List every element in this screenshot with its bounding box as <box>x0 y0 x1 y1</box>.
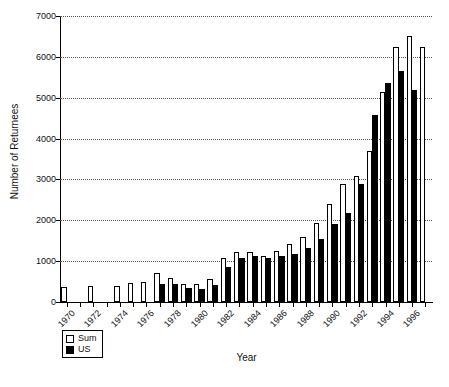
x-tick-mark <box>80 302 81 307</box>
bar-us <box>332 224 337 302</box>
x-tick-label: 1990 <box>321 308 342 329</box>
bar-group <box>234 16 245 302</box>
bar-group <box>221 16 232 302</box>
y-axis-title: Number of Returnees <box>10 103 21 199</box>
bar-group <box>300 16 311 302</box>
bar-group <box>380 16 391 302</box>
x-tick-label: 1992 <box>348 308 369 329</box>
chart-legend: Sum US <box>62 330 103 358</box>
bar-group <box>314 16 325 302</box>
x-tick-label: 1988 <box>295 308 316 329</box>
y-axis-title-wrap: Number of Returnees <box>6 0 24 302</box>
x-tick-mark <box>107 302 108 307</box>
x-tick-mark <box>279 302 280 307</box>
bar-group <box>420 16 431 302</box>
x-tick-label: 1986 <box>268 308 289 329</box>
bar-group <box>75 16 86 302</box>
bar-series-container <box>60 16 432 302</box>
bar-group <box>247 16 258 302</box>
x-tick-mark <box>293 302 294 307</box>
x-tick-label: 1996 <box>401 308 422 329</box>
x-axis-title: Year <box>60 352 433 363</box>
x-tick-mark <box>266 302 267 307</box>
y-tick-label: 5000 <box>36 93 56 103</box>
bar-group <box>207 16 218 302</box>
bar-us <box>319 239 324 302</box>
y-tick-label: 6000 <box>36 52 56 62</box>
y-tick-label: 3000 <box>36 174 56 184</box>
x-tick-mark <box>173 302 174 307</box>
bar-group <box>88 16 99 302</box>
legend-label-us: US <box>78 344 91 355</box>
bar-us <box>160 284 165 302</box>
bar-group <box>354 16 365 302</box>
bar-us <box>292 254 297 302</box>
bar-group <box>168 16 179 302</box>
bar-us <box>213 285 218 302</box>
x-tick-label: 1976 <box>135 308 156 329</box>
x-tick-mark <box>239 302 240 307</box>
x-tick-mark <box>346 302 347 307</box>
filled-square-swatch-icon <box>66 346 74 354</box>
bar-group <box>274 16 285 302</box>
bar-group <box>61 16 72 302</box>
bar-group <box>407 16 418 302</box>
legend-label-sum: Sum <box>78 333 97 344</box>
x-tick-label: 1980 <box>188 308 209 329</box>
bar-sum <box>128 283 133 302</box>
y-tick-label: 4000 <box>36 134 56 144</box>
x-tick-mark <box>412 302 413 307</box>
x-tick-mark <box>359 302 360 307</box>
bar-sum <box>61 287 66 302</box>
x-tick-mark <box>200 302 201 307</box>
x-tick-mark <box>213 302 214 307</box>
bar-us <box>226 267 231 302</box>
bar-group <box>128 16 139 302</box>
bar-us <box>199 289 204 302</box>
bar-group <box>141 16 152 302</box>
bar-us <box>173 284 178 302</box>
bar-us <box>385 83 390 302</box>
bar-chart-figure: Number of Returnees 01000200030004000500… <box>0 0 449 387</box>
bar-us <box>239 258 244 302</box>
x-tick-mark <box>186 302 187 307</box>
bar-us <box>346 213 351 302</box>
bar-sum <box>88 286 93 302</box>
x-tick-label: 1978 <box>162 308 183 329</box>
x-tick-label: 1984 <box>241 308 262 329</box>
bar-us <box>279 256 284 302</box>
bar-us <box>372 115 377 302</box>
bar-group <box>393 16 404 302</box>
legend-item-sum: Sum <box>66 333 97 344</box>
x-tick-label: 1974 <box>109 308 130 329</box>
x-tick-label: 1972 <box>82 308 103 329</box>
plot-area: 01000200030004000500060007000 <box>60 16 432 302</box>
bar-group <box>101 16 112 302</box>
bar-us <box>186 288 191 302</box>
x-tick-mark <box>425 302 426 307</box>
x-tick-mark <box>372 302 373 307</box>
x-tick-mark <box>226 302 227 307</box>
x-axis-line <box>60 302 433 303</box>
y-tick-label: 7000 <box>36 11 56 21</box>
bar-group <box>367 16 378 302</box>
legend-item-us: US <box>66 344 97 355</box>
x-tick-mark <box>332 302 333 307</box>
bar-us <box>306 248 311 302</box>
x-tick-mark <box>160 302 161 307</box>
x-tick-mark <box>133 302 134 307</box>
bar-us <box>359 184 364 302</box>
bar-group <box>154 16 165 302</box>
x-tick-mark <box>93 302 94 307</box>
x-tick-mark <box>386 302 387 307</box>
open-square-swatch-icon <box>66 335 74 343</box>
x-tick-mark <box>253 302 254 307</box>
x-tick-label: 1970 <box>55 308 76 329</box>
x-tick-label: 1982 <box>215 308 236 329</box>
y-tick-label: 1000 <box>36 256 56 266</box>
bar-us <box>412 90 417 302</box>
bar-us <box>399 71 404 302</box>
bar-group <box>194 16 205 302</box>
x-tick-mark <box>120 302 121 307</box>
bar-group <box>261 16 272 302</box>
